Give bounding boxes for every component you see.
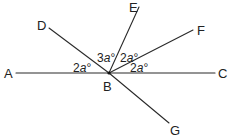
point-label-c: C (218, 66, 227, 81)
angle-label-dbe: 3a° (97, 51, 115, 65)
point-label-e: E (129, 0, 138, 15)
point-label-d: D (37, 18, 46, 33)
vertex-label-b: B (103, 79, 112, 94)
angle-label-abd: 2a° (73, 61, 91, 75)
point-label-a: A (4, 66, 13, 81)
angle-diagram: A C D E F G B 2a° 3a° 2a° 2a° (0, 0, 240, 139)
point-label-g: G (170, 123, 180, 138)
point-label-f: F (197, 23, 205, 38)
angle-label-fbc: 2a° (130, 61, 148, 75)
ray-bg (109, 73, 169, 123)
vertex-dot (107, 71, 110, 74)
